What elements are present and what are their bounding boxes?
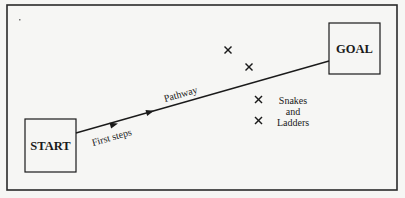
pathway-label: Pathway	[163, 84, 199, 104]
start-label: START	[30, 139, 71, 153]
start-node: START	[25, 119, 76, 172]
arrow-head-icon	[145, 108, 154, 116]
legend-line-2: and	[286, 106, 300, 117]
x-marker-icon	[246, 64, 253, 71]
x-marker-icon	[255, 117, 262, 124]
x-marker-icon	[225, 47, 232, 54]
x-marker-icon	[255, 96, 262, 103]
legend: Snakes and Ladders	[277, 95, 309, 128]
stray-dot	[19, 19, 21, 21]
first-steps-label: First steps	[91, 126, 133, 148]
diagram-canvas: START GOAL First steps Pathway Snakes an…	[0, 0, 405, 198]
legend-line-1: Snakes	[279, 95, 307, 106]
legend-line-3: Ladders	[277, 117, 309, 128]
goal-label: GOAL	[336, 42, 373, 56]
goal-node: GOAL	[329, 23, 380, 74]
